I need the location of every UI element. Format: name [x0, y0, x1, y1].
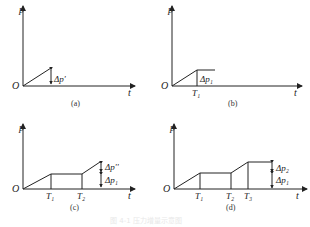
- origin-label: O: [12, 183, 19, 194]
- panel-label: (c): [70, 203, 79, 212]
- panel-label: (b): [228, 99, 238, 108]
- t2-label: T₂: [226, 191, 234, 201]
- y-axis-label: p: [169, 122, 175, 133]
- t2-label: T₂: [77, 191, 85, 201]
- origin-label: O: [12, 80, 19, 91]
- y-axis-label: p: [18, 4, 24, 15]
- x-axis-label: t: [296, 190, 299, 201]
- panel-a: p t O Δp' (a): [12, 4, 135, 108]
- panel-c: p t O Δp'' Δp₁ T₁ T₂ (c): [12, 122, 135, 212]
- delta-p1-label: Δp₁: [275, 175, 289, 185]
- origin-label: O: [161, 80, 168, 91]
- delta-p1-label: Δp₁: [199, 74, 213, 84]
- panel-label: (a): [71, 99, 80, 108]
- pressure-curve: [23, 68, 51, 86]
- pressure-curve: [23, 162, 100, 189]
- x-axis-label: t: [128, 190, 131, 201]
- panel-b: p t O Δp₁ T₁ (b): [161, 4, 302, 108]
- t1-label: T₁: [192, 88, 200, 98]
- origin-label: O: [163, 183, 170, 194]
- t1-label: T₁: [195, 191, 203, 201]
- pressure-time-diagram: p t O Δp' (a) p t O Δp₁ T₁ (b) p t O Δp'…: [0, 0, 310, 227]
- delta-p-dprime-label: Δp'': [104, 162, 120, 172]
- x-axis-label: t: [128, 87, 131, 98]
- x-axis-label: t: [294, 87, 297, 98]
- y-axis-label: p: [167, 4, 173, 15]
- delta-p-prime-label: Δp': [53, 74, 67, 84]
- panel-label: (d): [226, 203, 236, 212]
- delta-p1-label: Δp₁: [104, 175, 118, 185]
- figure-caption: 图 4-1 压力增量示意图: [110, 216, 182, 225]
- panel-d: p t O Δp₂ Δp₁ T₁ T₂ T₃ (d): [163, 122, 307, 212]
- t1-label: T₁: [46, 191, 54, 201]
- delta-p2-label: Δp₂: [275, 163, 289, 173]
- y-axis-label: p: [18, 122, 24, 133]
- pressure-curve: [174, 162, 272, 189]
- t3-label: T₃: [244, 191, 252, 201]
